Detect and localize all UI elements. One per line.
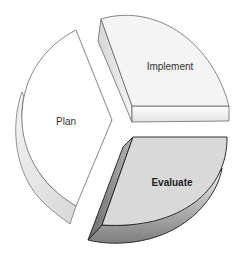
plan-implement-evaluate-diagram: Plan Implement Evaluate	[0, 0, 239, 256]
segment-plan	[16, 30, 112, 224]
segment-evaluate	[88, 137, 227, 243]
evaluate-label: Evaluate	[151, 177, 192, 188]
implement-label: Implement	[147, 61, 194, 72]
plan-label: Plan	[56, 116, 76, 127]
implement-front-face	[132, 106, 229, 122]
